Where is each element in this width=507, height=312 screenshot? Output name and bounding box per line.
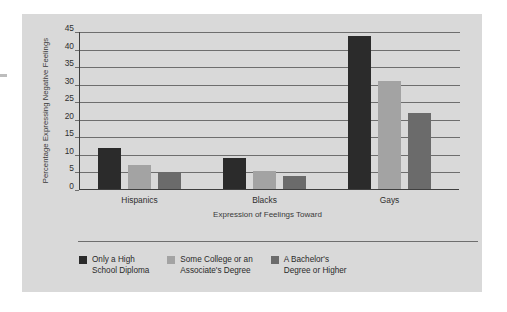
x-tick-label-blacks: Blacks	[225, 195, 305, 205]
y-tick-label: 25	[65, 98, 74, 99]
chart-legend: Only a High School DiplomaSome College o…	[79, 255, 479, 276]
x-tick-label-hispanics: Hispanics	[100, 195, 180, 205]
legend-divider	[78, 241, 478, 242]
y-tick-label: 45	[65, 28, 74, 29]
bar	[98, 148, 121, 190]
legend-label: Only a High School Diploma	[92, 255, 149, 276]
gridline	[80, 32, 455, 33]
bar	[348, 36, 371, 190]
legend-item: A Bachelor's Degree or Higher	[271, 255, 347, 276]
x-tick-label-gays: Gays	[350, 195, 430, 205]
y-tick-mark-right	[455, 155, 460, 156]
bar	[223, 158, 246, 190]
y-tick-label: 10	[65, 151, 74, 152]
y-tick-label: 30	[65, 81, 74, 82]
y-tick-mark-right	[455, 120, 460, 121]
x-axis-line	[80, 189, 459, 190]
plot-wrapper: Percentage Expressing Negative Feelings …	[22, 14, 482, 292]
y-tick-mark	[75, 190, 79, 191]
legend-swatch	[79, 256, 87, 264]
gridline	[80, 50, 455, 51]
bar	[128, 165, 151, 190]
legend-item: Some College or an Associate's Degree	[167, 255, 252, 276]
y-tick-label: 35	[65, 63, 74, 64]
y-tick-label: 40	[65, 46, 74, 47]
y-tick-mark-right	[455, 102, 460, 103]
y-tick-mark-right	[455, 67, 460, 68]
legend-swatch	[167, 256, 175, 264]
y-tick-mark-right	[455, 137, 460, 138]
bar	[253, 171, 276, 190]
chart-panel: Percentage Expressing Negative Feelings …	[22, 14, 482, 292]
legend-label: Some College or an Associate's Degree	[180, 255, 252, 276]
y-tick-mark-right	[455, 85, 460, 86]
y-tick-mark-right	[455, 50, 460, 51]
y-tick-mark-right	[455, 172, 460, 173]
bar	[378, 81, 401, 190]
y-axis-title: Percentage Expressing Negative Feelings	[41, 26, 50, 196]
legend-label: A Bachelor's Degree or Higher	[284, 255, 347, 276]
y-tick-label: 5	[69, 168, 74, 169]
bar	[158, 172, 181, 190]
y-axis-line	[79, 32, 80, 190]
plot-area: 051015202530354045 HispanicsBlacksGays	[80, 32, 455, 190]
y-tick-label: 0	[69, 186, 74, 187]
gridline	[80, 67, 455, 68]
legend-item: Only a High School Diploma	[79, 255, 149, 276]
y-tick-mark-right	[455, 32, 460, 33]
left-edge-tick-mark	[0, 74, 7, 77]
y-tick-label: 20	[65, 116, 74, 117]
legend-swatch	[271, 256, 279, 264]
x-axis-title: Expression of Feelings Toward	[80, 210, 455, 219]
bar	[408, 113, 431, 190]
y-tick-label: 15	[65, 133, 74, 134]
